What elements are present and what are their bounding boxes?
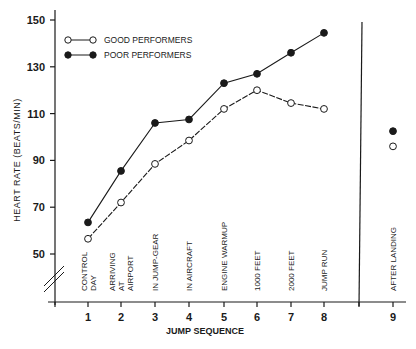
y-tick-label: 90: [33, 154, 45, 166]
category-labels: CONTROLDAYARRIVINGATAIRPORTIN JUMP-GEARI…: [80, 222, 399, 291]
series-good-performers: [85, 87, 397, 242]
x-tick-label: 8: [321, 311, 327, 323]
data-point: [186, 137, 193, 144]
legend-marker: [65, 52, 71, 58]
axis-break-mark: [44, 266, 64, 286]
data-point: [390, 128, 397, 135]
data-point: [254, 87, 261, 94]
category-label: AFTER LANDING: [389, 227, 398, 291]
data-point: [288, 100, 295, 107]
y-axis-ticks: 507090110130150: [27, 14, 55, 260]
data-point: [390, 143, 397, 150]
category-label: ARRIVING: [108, 252, 117, 291]
data-point: [118, 199, 125, 206]
x-tick-label: 2: [118, 311, 124, 323]
data-point: [85, 235, 92, 242]
y-tick-label: 130: [27, 61, 45, 73]
category-label: 2000 FEET: [287, 250, 296, 291]
category-label: IN JUMP-GEAR: [151, 233, 160, 291]
legend: GOOD PERFORMERSPOOR PERFORMERS: [65, 35, 193, 60]
y-tick-label: 50: [33, 248, 45, 260]
data-point: [321, 29, 328, 36]
heart-rate-chart: 507090110130150 123456789 CONTROLDAYARRI…: [0, 0, 416, 349]
axis-break-mark: [44, 272, 64, 292]
category-label: AIRPORT: [126, 255, 135, 291]
data-point: [288, 49, 295, 56]
x-tick-label: 6: [254, 311, 260, 323]
data-point: [186, 116, 193, 123]
x-tick-label: 3: [152, 311, 158, 323]
y-tick-label: 70: [33, 201, 45, 213]
category-label: DAY: [89, 274, 98, 291]
legend-item-good: GOOD PERFORMERS: [65, 35, 193, 45]
x-axis-title: JUMP SEQUENCE: [166, 326, 244, 336]
divider-line: [359, 22, 362, 306]
x-tick-label: 9: [390, 311, 396, 323]
data-point: [85, 219, 92, 226]
legend-marker: [65, 37, 71, 43]
data-point: [118, 168, 125, 175]
x-axis-ticks: 123456789: [55, 302, 396, 323]
y-tick-label: 110: [27, 108, 45, 120]
legend-item-poor: POOR PERFORMERS: [65, 50, 192, 60]
legend-label: GOOD PERFORMERS: [104, 35, 193, 45]
data-point: [221, 106, 228, 113]
y-tick-label: 150: [27, 14, 45, 26]
y-axis-title: HEART RATE (BEATS/MIN): [12, 98, 22, 221]
x-tick-label: 1: [85, 311, 91, 323]
x-tick-label: 5: [221, 311, 227, 323]
legend-marker: [90, 37, 96, 43]
category-label: JUMP RUN: [320, 250, 329, 291]
data-series: [85, 29, 397, 242]
category-label: ENGINE WARMUP: [220, 222, 229, 291]
category-label: AT: [117, 281, 126, 291]
data-point: [254, 70, 261, 77]
x-tick-label: 4: [186, 311, 193, 323]
legend-marker: [90, 52, 96, 58]
category-label: IN AIRCRAFT: [185, 241, 194, 291]
x-tick-label: 7: [288, 311, 294, 323]
data-point: [152, 161, 159, 168]
data-point: [321, 106, 328, 113]
legend-label: POOR PERFORMERS: [104, 50, 192, 60]
category-label: 1000 FEET: [253, 250, 262, 291]
category-label: CONTROL: [80, 251, 89, 291]
data-point: [221, 80, 228, 87]
data-point: [152, 120, 159, 127]
